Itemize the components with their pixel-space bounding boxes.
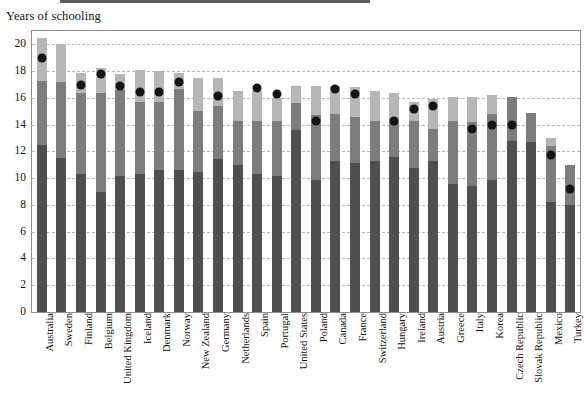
bar-segment: [350, 163, 360, 312]
marker-dot: [213, 91, 222, 100]
marker-dot: [429, 102, 438, 111]
bar-segment: [448, 184, 458, 312]
bar-group[interactable]: [37, 31, 47, 312]
bar-segment: [272, 176, 282, 312]
bar-segment: [56, 158, 66, 312]
bar-group[interactable]: [213, 31, 223, 312]
top-rule-divider: [60, 0, 370, 3]
marker-dot: [350, 90, 359, 99]
bar-segment: [311, 86, 321, 115]
y-tick-label: 18: [2, 64, 26, 76]
marker-dot: [253, 83, 262, 92]
bar-group[interactable]: [56, 31, 66, 312]
marker-dot: [507, 121, 516, 130]
x-tick-label: New Zealand: [201, 313, 212, 369]
bar-segment: [37, 145, 47, 312]
x-tick-label: Norway: [182, 313, 193, 347]
y-tick-label: 14: [2, 118, 26, 130]
bar-segment: [76, 174, 86, 312]
bar-group[interactable]: [272, 31, 282, 312]
bar-group[interactable]: [193, 31, 203, 312]
x-tick-label: Switzerland: [378, 313, 389, 363]
x-tick-label: Sweden: [64, 313, 75, 346]
marker-dot: [76, 81, 85, 90]
y-tick-label: 16: [2, 91, 26, 103]
bar-segment: [37, 81, 47, 145]
x-tick-label: Denmark: [162, 313, 173, 352]
bar-group[interactable]: [350, 31, 360, 312]
bar-segment: [467, 97, 477, 122]
bar-group[interactable]: [526, 31, 536, 312]
bar-group[interactable]: [487, 31, 497, 312]
bar-group[interactable]: [115, 31, 125, 312]
y-tick-label: 6: [2, 225, 26, 237]
bar-segment: [96, 93, 106, 192]
bar-segment: [565, 205, 575, 312]
bar-group[interactable]: [174, 31, 184, 312]
bars-layer: [32, 31, 580, 312]
bar-segment: [507, 141, 517, 312]
bar-group[interactable]: [291, 31, 301, 312]
bar-segment: [115, 176, 125, 312]
x-tick-label: Korea: [495, 313, 506, 339]
x-tick-label: Netherlands: [241, 313, 252, 364]
bar-segment: [174, 170, 184, 312]
bar-segment: [135, 70, 145, 102]
bar-segment: [96, 192, 106, 312]
bar-group[interactable]: [233, 31, 243, 312]
bar-segment: [526, 142, 536, 312]
bar-segment: [389, 157, 399, 312]
bar-group[interactable]: [330, 31, 340, 312]
y-axis-ticks: 02468101214161820: [0, 30, 26, 313]
bar-segment: [252, 174, 262, 312]
bar-segment: [154, 102, 164, 170]
bar-segment: [291, 103, 301, 130]
bar-segment: [135, 174, 145, 312]
x-tick-label: Portugal: [280, 313, 291, 349]
y-tick-label: 4: [2, 251, 26, 263]
bar-group[interactable]: [154, 31, 164, 312]
marker-dot: [116, 82, 125, 91]
bar-segment: [507, 97, 517, 141]
bar-group[interactable]: [507, 31, 517, 312]
bar-segment: [370, 91, 380, 120]
bar-group[interactable]: [76, 31, 86, 312]
bar-group[interactable]: [546, 31, 556, 312]
bar-group[interactable]: [311, 31, 321, 312]
x-tick-label: Canada: [338, 313, 349, 345]
x-axis-labels: AustraliaSwedenFinlandBelgiumUnited King…: [31, 313, 581, 403]
chart-root: Years of schooling 02468101214161820 Aus…: [0, 0, 588, 403]
marker-dot: [174, 78, 183, 87]
bar-group[interactable]: [448, 31, 458, 312]
bar-group[interactable]: [370, 31, 380, 312]
y-tick-label: 10: [2, 171, 26, 183]
bar-group[interactable]: [565, 31, 575, 312]
bar-group[interactable]: [135, 31, 145, 312]
bar-segment: [389, 122, 399, 157]
bar-group[interactable]: [428, 31, 438, 312]
bar-segment: [56, 44, 66, 81]
bar-group[interactable]: [252, 31, 262, 312]
x-tick-label: Turkey: [573, 313, 584, 343]
bar-segment: [311, 180, 321, 312]
x-tick-label: United States: [299, 313, 310, 369]
bar-segment: [448, 121, 458, 184]
bar-group[interactable]: [409, 31, 419, 312]
bar-segment: [56, 82, 66, 158]
bar-segment: [252, 91, 262, 120]
x-tick-label: Belgium: [104, 313, 115, 349]
x-tick-label: Mexico: [554, 313, 565, 345]
bar-group[interactable]: [467, 31, 477, 312]
x-tick-label: Iceland: [143, 313, 154, 344]
bar-segment: [252, 121, 262, 175]
bar-segment: [330, 161, 340, 312]
bar-group[interactable]: [389, 31, 399, 312]
marker-dot: [409, 105, 418, 114]
bar-segment: [233, 91, 243, 120]
chart-title: Years of schooling: [6, 9, 101, 24]
bar-segment: [428, 161, 438, 312]
bar-segment: [546, 138, 556, 146]
marker-dot: [155, 87, 164, 96]
y-tick-label: 2: [2, 278, 26, 290]
marker-dot: [390, 117, 399, 126]
